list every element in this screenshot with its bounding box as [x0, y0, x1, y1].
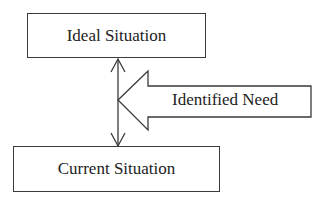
ideal-situation-label: Ideal Situation: [67, 26, 167, 46]
ideal-situation-box: Ideal Situation: [27, 13, 206, 58]
current-situation-label: Current Situation: [58, 159, 176, 179]
current-situation-box: Current Situation: [13, 146, 220, 192]
needs-gap-diagram: Ideal Situation Identified Need Current …: [0, 0, 327, 204]
identified-need-label: Identified Need: [172, 90, 278, 110]
